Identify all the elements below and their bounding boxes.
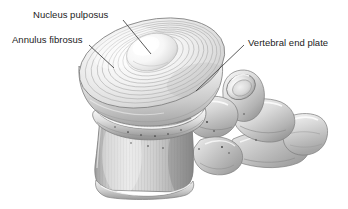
vertebra-disc-illustration — [0, 0, 348, 209]
label-annulus-fibrosus: Annulus fibrosus — [12, 34, 83, 45]
figure-container: Nucleus pulposus Annulus fibrosus Verteb… — [0, 0, 348, 209]
label-nucleus-pulposus: Nucleus pulposus — [33, 9, 108, 20]
label-vertebral-end-plate: Vertebral end plate — [248, 37, 328, 48]
